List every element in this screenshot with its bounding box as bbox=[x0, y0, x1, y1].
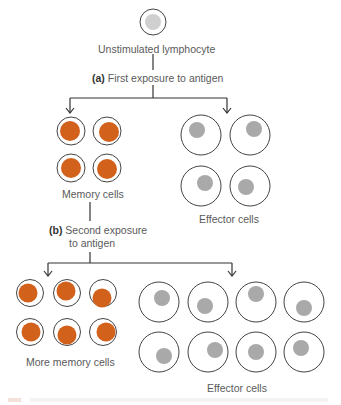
unstimulated-lymphocyte-cell-nucleus bbox=[145, 14, 161, 30]
label-memory-cells: Memory cells bbox=[62, 188, 124, 200]
step-a-marker: (a) bbox=[92, 72, 105, 84]
label-step-b-line2: to antigen bbox=[69, 237, 115, 249]
memory-cell-bottom-2-nucleus bbox=[93, 289, 112, 308]
label-step-b: (b) Second exposure bbox=[49, 224, 147, 236]
effector-cell-bottom-5-nucleus bbox=[207, 342, 223, 358]
effector-cell-top-0-nucleus bbox=[189, 122, 205, 138]
effector-cell-bottom-1-nucleus bbox=[197, 298, 213, 314]
effector-cell-top-2-nucleus bbox=[197, 175, 213, 191]
label-effector-cells-top: Effector cells bbox=[199, 213, 259, 225]
diagram-canvas bbox=[0, 0, 341, 405]
effector-cell-bottom-3-nucleus bbox=[296, 300, 312, 316]
label-unstimulated-lymphocyte: Unstimulated lymphocyte bbox=[98, 43, 215, 55]
label-step-a: (a) First exposure to antigen bbox=[92, 72, 223, 84]
memory-cell-top-3-nucleus bbox=[97, 159, 117, 179]
effector-cell-top-3-nucleus bbox=[238, 179, 254, 195]
label-more-memory-cells: More memory cells bbox=[26, 356, 115, 368]
memory-cell-bottom-1-nucleus bbox=[57, 282, 76, 301]
step-b-marker: (b) bbox=[49, 224, 62, 236]
memory-cell-bottom-4-nucleus bbox=[58, 326, 77, 345]
step-a-text: First exposure to antigen bbox=[108, 72, 224, 84]
effector-cell-bottom-2-nucleus bbox=[248, 286, 264, 302]
memory-cell-top-1-nucleus bbox=[99, 122, 119, 142]
memory-cell-top-0-nucleus bbox=[60, 121, 80, 141]
effector-cell-top-1-nucleus bbox=[246, 121, 262, 137]
label-effector-cells-bottom: Effector cells bbox=[207, 382, 267, 394]
figure-caption-cropped bbox=[8, 398, 328, 402]
step-b-text-line1: Second exposure bbox=[65, 224, 147, 236]
memory-cell-top-2-nucleus bbox=[61, 158, 81, 178]
effector-cell-bottom-6-nucleus bbox=[248, 344, 264, 360]
memory-cell-bottom-5-nucleus bbox=[97, 323, 116, 342]
effector-cell-bottom-7-nucleus bbox=[293, 340, 309, 356]
lymphocyte-diagram: Unstimulated lymphocyte (a) First exposu… bbox=[0, 0, 341, 405]
memory-cell-bottom-3-nucleus bbox=[22, 323, 41, 342]
effector-cell-bottom-0-nucleus bbox=[154, 290, 170, 306]
effector-cell-bottom-4-nucleus bbox=[156, 348, 172, 364]
memory-cell-bottom-0-nucleus bbox=[19, 284, 38, 303]
